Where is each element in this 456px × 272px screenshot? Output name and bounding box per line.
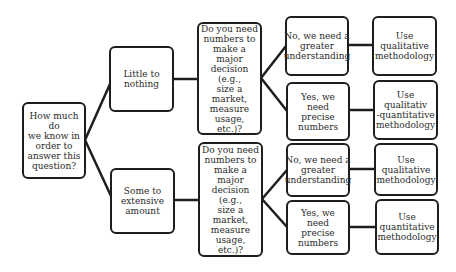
outcome-qual-quant-top: Use qualitativ -quantitative methodology — [373, 80, 438, 140]
answer-yes-bottom: Yes, we need precise numbers — [286, 200, 350, 255]
root-question-box: How much do we know in order to answer t… — [22, 102, 86, 179]
outcome-qualitative-bottom: Use qualitative methodology — [374, 143, 438, 196]
answer-no-top: No, we need a greater understanding — [285, 16, 349, 76]
answer-no-bottom: No, we need a greater understanding — [286, 143, 350, 197]
branch-some-to-extensive: Some to extensive amount — [110, 168, 175, 234]
branch-little-to-nothing: Little to nothing — [109, 46, 174, 112]
answer-yes-top: Yes, we need precise numbers — [286, 82, 350, 141]
outcome-quantitative-bottom: Use quantitative methodology — [375, 199, 439, 255]
question-box-bottom: Do you need numbers to make a major deci… — [198, 142, 263, 257]
question-box-top: Do you need numbers to make a major deci… — [197, 22, 262, 135]
outcome-qualitative-top: Use qualitative methodology — [372, 16, 437, 76]
